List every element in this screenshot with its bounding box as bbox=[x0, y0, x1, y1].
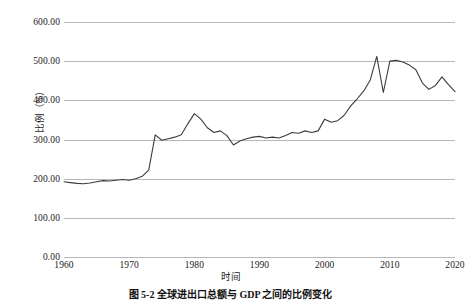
x-tick-label: 1980 bbox=[172, 260, 216, 271]
x-tick-label: 2020 bbox=[433, 260, 469, 271]
x-tick-label: 2000 bbox=[303, 260, 347, 271]
x-tick-label: 1960 bbox=[42, 260, 86, 271]
x-tick-label: 1990 bbox=[238, 260, 282, 271]
x-tick-label: 2010 bbox=[368, 260, 412, 271]
x-axis-title: 时间 bbox=[0, 272, 461, 283]
x-tick-label: 1970 bbox=[107, 260, 151, 271]
figure-caption: 图 5-2 全球进出口总额与 GDP 之间的比例变化 bbox=[0, 289, 461, 300]
